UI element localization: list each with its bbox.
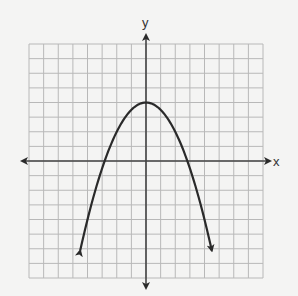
coordinate-plane: x y	[0, 0, 298, 296]
y-axis-label: y	[142, 15, 149, 30]
x-axis-label: x	[273, 154, 280, 169]
